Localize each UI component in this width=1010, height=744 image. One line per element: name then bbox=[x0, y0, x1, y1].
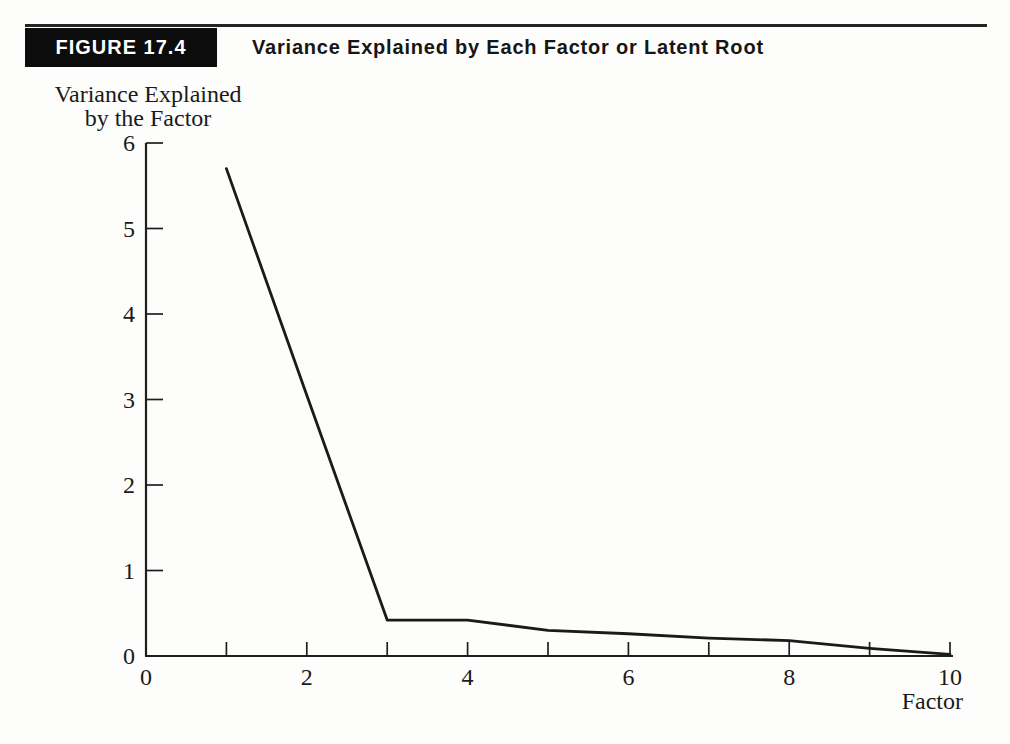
y-tick-label: 5 bbox=[123, 216, 135, 242]
x-tick-label: 4 bbox=[462, 664, 474, 690]
y-tick-label: 1 bbox=[123, 558, 135, 584]
x-axis-title: Factor bbox=[902, 688, 963, 714]
y-tick-label: 0 bbox=[123, 643, 135, 669]
figure-page: FIGURE 17.4 Variance Explained by Each F… bbox=[0, 0, 1010, 744]
y-axis-title-line: Variance Explained bbox=[54, 81, 241, 107]
x-tick-label: 6 bbox=[622, 664, 634, 690]
y-axis-title-line: by the Factor bbox=[85, 105, 212, 131]
y-tick-label: 4 bbox=[123, 301, 135, 327]
x-tick-label: 10 bbox=[938, 664, 962, 690]
x-tick-label: 2 bbox=[301, 664, 313, 690]
scree-line bbox=[226, 169, 950, 655]
scree-plot: 01234560246810Variance Explainedby the F… bbox=[0, 0, 1010, 744]
y-tick-label: 6 bbox=[123, 130, 135, 156]
y-tick-label: 3 bbox=[123, 387, 135, 413]
y-tick-label: 2 bbox=[123, 472, 135, 498]
x-tick-label: 8 bbox=[783, 664, 795, 690]
x-tick-label: 0 bbox=[140, 664, 152, 690]
